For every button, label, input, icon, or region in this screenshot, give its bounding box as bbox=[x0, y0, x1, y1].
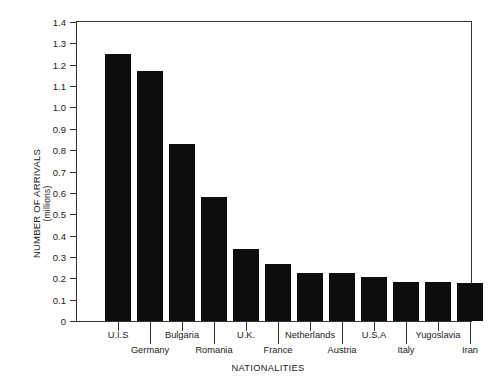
y-axis-tick bbox=[70, 107, 77, 108]
y-axis-tick bbox=[70, 300, 77, 301]
y-axis-tick-label: 0.7 bbox=[40, 166, 66, 177]
y-axis-tick-label: 0.4 bbox=[40, 230, 66, 241]
x-axis-tick-label: U.I.S bbox=[108, 330, 129, 340]
y-axis-tick-label: 1.3 bbox=[40, 38, 66, 49]
x-axis-tick-label: Austria bbox=[328, 345, 357, 355]
y-axis-tick-label: 0.5 bbox=[40, 209, 66, 220]
bar-series bbox=[77, 22, 471, 321]
bar bbox=[233, 249, 259, 321]
y-axis-tick bbox=[70, 172, 77, 173]
x-axis-tick-label: Yugoslavia bbox=[416, 330, 461, 340]
y-axis-tick-label: 1.4 bbox=[40, 17, 66, 28]
y-axis-tick-label: 1.0 bbox=[40, 102, 66, 113]
y-axis-tick-label: 1.1 bbox=[40, 81, 66, 92]
y-axis-tick bbox=[70, 214, 77, 215]
x-axis-tick bbox=[278, 322, 279, 344]
y-axis-tick-label: 0.8 bbox=[40, 145, 66, 156]
y-axis-tick bbox=[70, 193, 77, 194]
x-axis-tick-label: Netherlands bbox=[285, 330, 335, 340]
x-axis-tick bbox=[150, 322, 151, 344]
y-axis-tick-label: 0 bbox=[40, 316, 66, 327]
y-axis-tick bbox=[70, 43, 77, 44]
x-axis-tick-label: U.S.A bbox=[362, 330, 386, 340]
bar bbox=[297, 273, 323, 321]
y-axis-tick-label: 0.2 bbox=[40, 273, 66, 284]
y-axis-tick-label: 0.3 bbox=[40, 251, 66, 262]
bar bbox=[361, 277, 387, 321]
y-axis-tick bbox=[70, 22, 77, 23]
bar bbox=[457, 283, 483, 321]
x-axis-tick bbox=[470, 322, 471, 344]
x-axis-tick-label: Italy bbox=[397, 345, 414, 355]
x-axis-tick bbox=[342, 322, 343, 344]
y-axis-tick-label: 0.6 bbox=[40, 187, 66, 198]
y-axis-tick bbox=[70, 257, 77, 258]
bar bbox=[329, 273, 355, 321]
x-axis-tick-label: Bulgaria bbox=[165, 330, 199, 340]
y-axis-tick bbox=[70, 278, 77, 279]
x-axis-tick-label: France bbox=[264, 345, 293, 355]
y-axis-title: NUMBER OF ARRIVALS (millions) bbox=[12, 78, 32, 258]
y-axis-tick-label: 0.9 bbox=[40, 123, 66, 134]
x-axis-tick-label: Germany bbox=[131, 345, 169, 355]
bar-chart-figure: NUMBER OF ARRIVALS (millions) 1.41.31.21… bbox=[0, 0, 496, 383]
y-axis-tick bbox=[70, 65, 77, 66]
x-axis-tick-label: U.K. bbox=[237, 330, 255, 340]
x-axis-tick bbox=[214, 322, 215, 344]
y-axis-tick bbox=[70, 321, 77, 322]
y-axis-tick bbox=[70, 129, 77, 130]
bar bbox=[265, 264, 291, 321]
y-axis-tick-label: 1.2 bbox=[40, 59, 66, 70]
bar bbox=[201, 197, 227, 321]
bar bbox=[169, 144, 195, 321]
y-axis-tick bbox=[70, 150, 77, 151]
bar bbox=[105, 54, 131, 321]
x-axis-title-text: NATIONALITIES bbox=[232, 363, 305, 373]
y-axis-tick bbox=[70, 86, 77, 87]
bar bbox=[137, 71, 163, 321]
x-axis-tick-label: Romania bbox=[195, 345, 232, 355]
y-axis-tick-label: 0.1 bbox=[40, 294, 66, 305]
y-axis-tick bbox=[70, 236, 77, 237]
bar bbox=[393, 282, 419, 321]
x-axis-tick-label: Iran bbox=[462, 345, 478, 355]
bar bbox=[425, 282, 451, 321]
x-axis-tick bbox=[406, 322, 407, 344]
x-axis-title: NATIONALITIES bbox=[0, 363, 496, 373]
